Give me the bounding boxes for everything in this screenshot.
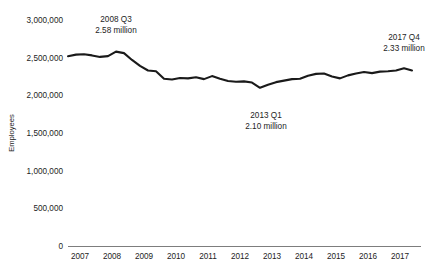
annotation-period-label: 2013 Q1 <box>250 111 282 120</box>
series-line-employees <box>68 52 412 88</box>
y-axis-tick-labels: 0500,0001,000,0001,500,0002,000,0002,500… <box>27 16 64 251</box>
annotation-value-label: 2.58 million <box>95 26 137 35</box>
y-axis-tick-label: 0 <box>58 242 63 251</box>
y-axis-title: Employees <box>7 114 16 152</box>
annotation-period-label: 2017 Q4 <box>388 33 420 42</box>
x-axis-tick-label: 2008 <box>103 252 122 261</box>
x-axis-tick-label: 2014 <box>295 252 314 261</box>
x-axis-tick-label: 2015 <box>327 252 346 261</box>
x-axis-tick-label: 2012 <box>231 252 250 261</box>
x-axis-tick-label: 2010 <box>167 252 186 261</box>
x-axis-tick-label: 2007 <box>71 252 90 261</box>
x-axis-tick-label: 2011 <box>199 252 217 261</box>
y-axis-tick-label: 1,000,000 <box>27 167 64 176</box>
x-axis-tick-labels: 2007200820092010201120122013201420152016… <box>71 252 410 261</box>
x-axis-tick-label: 2016 <box>359 252 378 261</box>
annotation-value-label: 2.10 million <box>245 122 287 131</box>
y-axis-tick-label: 500,000 <box>33 204 63 213</box>
y-axis-tick-label: 1,500,000 <box>27 129 64 138</box>
y-axis-tick-label: 3,000,000 <box>27 16 64 25</box>
annotation-trough: 2013 Q12.10 million <box>245 111 287 131</box>
x-axis-tick-label: 2017 <box>391 252 410 261</box>
x-axis-tick-label: 2013 <box>263 252 282 261</box>
chart-container: 0500,0001,000,0001,500,0002,000,0002,500… <box>0 0 434 275</box>
annotation-peak: 2008 Q32.58 million <box>95 15 137 35</box>
y-axis-tick-label: 2,000,000 <box>27 91 64 100</box>
employees-line-chart: 0500,0001,000,0001,500,0002,000,0002,500… <box>0 0 434 275</box>
y-axis-tick-label: 2,500,000 <box>27 54 64 63</box>
annotation-value-label: 2.33 million <box>383 44 425 53</box>
x-axis-tick-label: 2009 <box>135 252 154 261</box>
annotation-period-label: 2008 Q3 <box>100 15 132 24</box>
annotation-latest: 2017 Q42.33 million <box>383 33 425 53</box>
